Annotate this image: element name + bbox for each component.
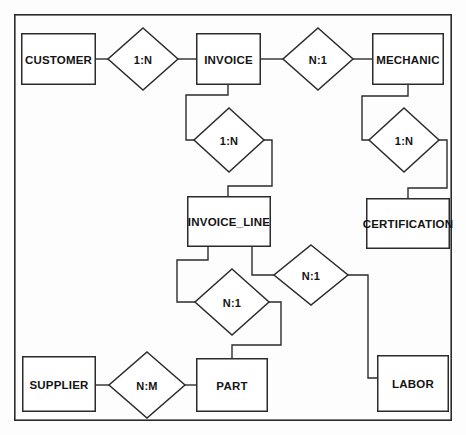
er-diagram-canvas: CUSTOMERINVOICEMECHANICINVOICE_LINECERTI… bbox=[0, 0, 466, 435]
entity-label-invoice_line: INVOICE_LINE bbox=[188, 216, 270, 228]
entity-part[interactable]: PART bbox=[197, 359, 268, 412]
relationship-rel-invoiceline-part[interactable]: N:1 bbox=[195, 269, 269, 335]
shape-layer: CUSTOMERINVOICEMECHANICINVOICE_LINECERTI… bbox=[22, 28, 454, 418]
relationship-rel-customer-invoice[interactable]: 1:N bbox=[108, 28, 178, 90]
entity-customer[interactable]: CUSTOMER bbox=[22, 34, 96, 85]
entity-mechanic[interactable]: MECHANIC bbox=[373, 34, 444, 85]
relationship-label-rel-mechanic-certification: 1:N bbox=[395, 135, 413, 147]
entity-invoice[interactable]: INVOICE bbox=[197, 34, 261, 85]
relationship-label-rel-supplier-part: N:M bbox=[136, 380, 157, 392]
relationship-rel-mechanic-certification[interactable]: 1:N bbox=[369, 108, 439, 172]
entity-labor[interactable]: LABOR bbox=[378, 356, 449, 412]
relationship-label-rel-customer-invoice: 1:N bbox=[134, 54, 152, 66]
relationship-rel-supplier-part[interactable]: N:M bbox=[109, 352, 185, 418]
relationship-label-rel-invoiceline-part: N:1 bbox=[223, 297, 241, 309]
edge-invoiceline-rel6 bbox=[252, 247, 274, 275]
entity-supplier[interactable]: SUPPLIER bbox=[23, 357, 96, 412]
entity-label-mechanic: MECHANIC bbox=[376, 54, 440, 66]
entity-label-labor: LABOR bbox=[392, 378, 434, 390]
entity-label-invoice: INVOICE bbox=[204, 54, 253, 66]
entity-invoice_line[interactable]: INVOICE_LINE bbox=[188, 197, 271, 247]
entity-label-part: PART bbox=[216, 380, 247, 392]
relationship-rel-invoice-invoiceline[interactable]: 1:N bbox=[194, 108, 264, 172]
relationship-rel-invoice-mechanic[interactable]: N:1 bbox=[283, 28, 353, 90]
relationship-rel-invoiceline-labor[interactable]: N:1 bbox=[274, 245, 348, 305]
relationship-label-rel-invoiceline-labor: N:1 bbox=[302, 270, 320, 282]
relationship-label-rel-invoice-mechanic: N:1 bbox=[309, 54, 327, 66]
edge-rel6-labor bbox=[348, 275, 377, 378]
entity-certification[interactable]: CERTIFICATION bbox=[363, 199, 454, 249]
relationship-label-rel-invoice-invoiceline: 1:N bbox=[220, 135, 238, 147]
entity-label-supplier: SUPPLIER bbox=[29, 379, 89, 391]
entity-label-customer: CUSTOMER bbox=[25, 54, 93, 66]
entity-label-certification: CERTIFICATION bbox=[363, 218, 454, 230]
